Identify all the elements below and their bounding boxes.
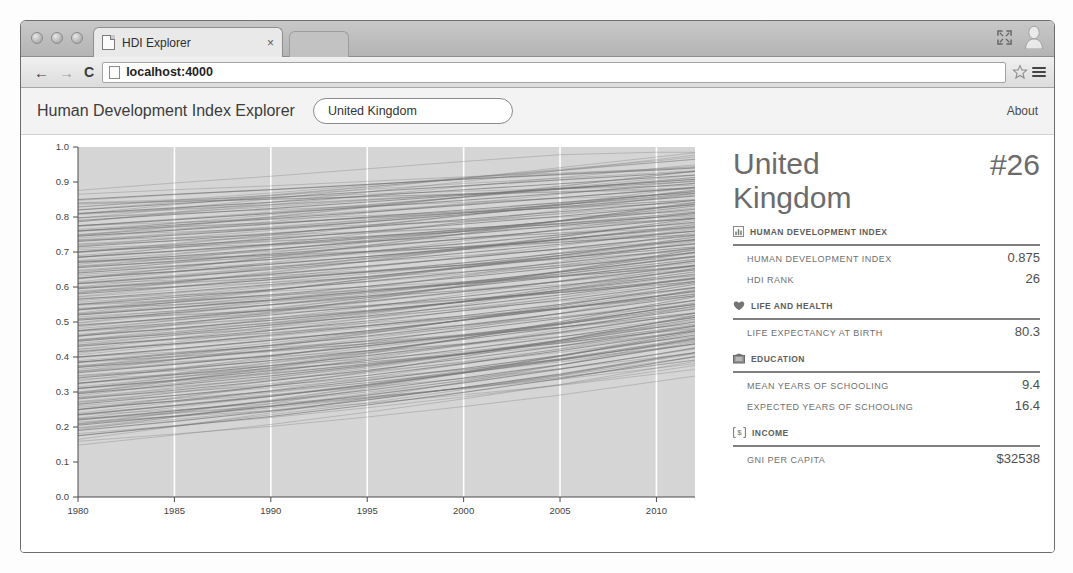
- address-bar[interactable]: localhost:4000: [102, 62, 1006, 83]
- fullscreen-icon[interactable]: [997, 30, 1012, 45]
- section-title: HUMAN DEVELOPMENT INDEX: [750, 227, 887, 237]
- book-icon: [733, 350, 745, 368]
- country-detail-panel: United Kingdom #26 HUMAN DEVELOPMENT IND…: [711, 135, 1054, 552]
- app-title: Human Development Index Explorer: [37, 102, 295, 120]
- user-avatar-icon[interactable]: [1024, 25, 1044, 49]
- stat-value: 16.4: [1015, 398, 1040, 413]
- country-name: United Kingdom: [733, 147, 943, 214]
- stat-value: 80.3: [1015, 324, 1040, 339]
- country-header: United Kingdom #26: [733, 147, 1040, 214]
- bookmark-star-icon[interactable]: [1012, 64, 1028, 80]
- tab-favicon-icon: [102, 35, 115, 50]
- maximize-window-button[interactable]: [71, 32, 83, 44]
- close-window-button[interactable]: [31, 32, 43, 44]
- stat-sections: HUMAN DEVELOPMENT INDEXHUMAN DEVELOPMENT…: [733, 223, 1040, 468]
- stat-label: HDI RANK: [747, 275, 794, 285]
- svg-text:0.6: 0.6: [56, 281, 69, 292]
- tab-close-icon[interactable]: ×: [261, 37, 274, 49]
- browser-tab-hdi-explorer[interactable]: HDI Explorer ×: [93, 27, 283, 57]
- section-title: LIFE AND HEALTH: [751, 301, 833, 311]
- stat-label: MEAN YEARS OF SCHOOLING: [747, 381, 889, 391]
- app-header: Human Development Index Explorer United …: [21, 88, 1054, 135]
- back-button[interactable]: ←: [29, 65, 54, 80]
- svg-text:1995: 1995: [357, 505, 378, 516]
- chart-y-tick-labels: 0.00.10.20.30.40.50.60.70.80.91.0: [56, 141, 78, 502]
- stat-label: EXPECTED YEARS OF SCHOOLING: [747, 402, 913, 412]
- svg-text:1980: 1980: [67, 505, 88, 516]
- hdi-chart-svg[interactable]: 0.00.10.20.30.40.50.60.70.80.91.0 198019…: [21, 135, 711, 552]
- stat-section: $INCOMEGNI PER CAPITA$32538: [733, 424, 1040, 468]
- stat-row: HUMAN DEVELOPMENT INDEX0.875: [733, 246, 1040, 267]
- stat-section: LIFE AND HEALTHLIFE EXPECTANCY AT BIRTH8…: [733, 297, 1040, 341]
- chart-x-tick-labels: 1980198519901995200020052010: [67, 497, 667, 516]
- section-header: $INCOME: [733, 424, 1040, 447]
- stat-row: LIFE EXPECTANCY AT BIRTH80.3: [733, 320, 1040, 341]
- minimize-window-button[interactable]: [51, 32, 63, 44]
- svg-text:0.9: 0.9: [56, 176, 69, 187]
- svg-text:1990: 1990: [260, 505, 281, 516]
- stat-section: HUMAN DEVELOPMENT INDEXHUMAN DEVELOPMENT…: [733, 223, 1040, 288]
- screenshot-root: HDI Explorer × ← → C loca: [0, 0, 1073, 573]
- tab-title: HDI Explorer: [122, 36, 261, 50]
- country-search-input[interactable]: United Kingdom: [313, 98, 513, 124]
- stat-value: 26: [1026, 271, 1040, 286]
- stat-value: 9.4: [1022, 377, 1040, 392]
- svg-text:2000: 2000: [453, 505, 474, 516]
- window-right-controls: [997, 25, 1044, 49]
- app-content: 0.00.10.20.30.40.50.60.70.80.91.0 198019…: [21, 135, 1054, 552]
- stat-row: EXPECTED YEARS OF SCHOOLING16.4: [733, 394, 1040, 415]
- hamburger-menu-icon[interactable]: [1032, 67, 1046, 77]
- section-header: HUMAN DEVELOPMENT INDEX: [733, 223, 1040, 246]
- stat-row: HDI RANK26: [733, 267, 1040, 288]
- svg-text:0.3: 0.3: [56, 386, 69, 397]
- window-controls[interactable]: [31, 32, 83, 44]
- svg-text:0.7: 0.7: [56, 246, 69, 257]
- country-rank-badge: #26: [990, 147, 1040, 182]
- forward-button[interactable]: →: [54, 65, 79, 80]
- stat-row: MEAN YEARS OF SCHOOLING9.4: [733, 373, 1040, 394]
- svg-text:2010: 2010: [646, 505, 667, 516]
- browser-toolbar: ← → C localhost:4000: [21, 57, 1054, 88]
- stat-label: GNI PER CAPITA: [747, 455, 825, 465]
- reload-button[interactable]: C: [79, 65, 102, 79]
- browser-window: HDI Explorer × ← → C loca: [20, 20, 1055, 553]
- svg-text:2005: 2005: [549, 505, 570, 516]
- svg-text:0.8: 0.8: [56, 211, 69, 222]
- stat-label: HUMAN DEVELOPMENT INDEX: [747, 254, 892, 264]
- svg-text:0.5: 0.5: [56, 316, 69, 327]
- stat-section: EDUCATIONMEAN YEARS OF SCHOOLING9.4EXPEC…: [733, 350, 1040, 415]
- heart-icon: [733, 297, 745, 315]
- country-select-value: United Kingdom: [328, 104, 417, 118]
- section-header: LIFE AND HEALTH: [733, 297, 1040, 320]
- hdi-lines-chart[interactable]: 0.00.10.20.30.40.50.60.70.80.91.0 198019…: [21, 135, 711, 552]
- svg-text:$: $: [737, 429, 742, 438]
- svg-text:0.0: 0.0: [56, 491, 69, 502]
- about-link[interactable]: About: [1007, 104, 1038, 118]
- stat-label: LIFE EXPECTANCY AT BIRTH: [747, 328, 883, 338]
- stat-value: 0.875: [1007, 250, 1040, 265]
- stat-value: $32538: [997, 451, 1040, 466]
- browser-tabstrip: HDI Explorer ×: [21, 21, 1054, 57]
- bar-chart-icon: [733, 223, 744, 241]
- page-security-icon: [109, 66, 120, 79]
- stat-row: GNI PER CAPITA$32538: [733, 447, 1040, 468]
- section-title: INCOME: [752, 428, 789, 438]
- new-tab-button[interactable]: [289, 31, 349, 57]
- svg-text:1.0: 1.0: [56, 141, 69, 152]
- section-title: EDUCATION: [751, 354, 805, 364]
- svg-text:0.1: 0.1: [56, 456, 69, 467]
- section-header: EDUCATION: [733, 350, 1040, 373]
- svg-text:0.4: 0.4: [56, 351, 69, 362]
- svg-text:1985: 1985: [164, 505, 185, 516]
- url-text: localhost:4000: [126, 65, 213, 79]
- svg-text:0.2: 0.2: [56, 421, 69, 432]
- dollar-icon: $: [733, 424, 746, 442]
